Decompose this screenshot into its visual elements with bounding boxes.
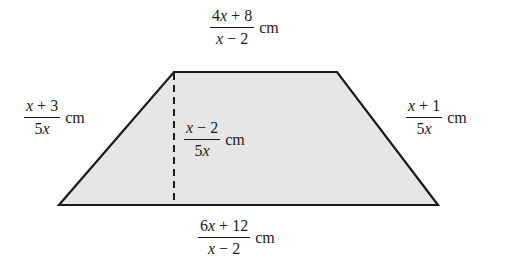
left-side-label: x + 3 5x cm [24,98,85,137]
height-numerator: x − 2 [184,120,220,140]
bottom-base-denominator: x − 2 [206,238,242,257]
left-side-denominator: 5x [33,118,52,137]
top-base-unit: cm [259,20,279,36]
top-base-fraction: 4x + 8 x − 2 [210,8,254,47]
top-base-numerator: 4x + 8 [210,8,254,28]
right-side-numerator: x + 1 [406,98,442,118]
left-side-unit: cm [65,110,85,126]
bottom-base-label: 6x + 12 x − 2 cm [198,218,275,257]
right-side-unit: cm [447,110,467,126]
right-side-label: x + 1 5x cm [406,98,467,137]
left-side-numerator: x + 3 [24,98,60,118]
bottom-base-unit: cm [255,230,275,246]
height-fraction: x − 2 5x [184,120,220,159]
height-label: x − 2 5x cm [184,120,245,159]
height-unit: cm [225,132,245,148]
top-base-denominator: x − 2 [214,28,250,47]
top-base-label: 4x + 8 x − 2 cm [210,8,279,47]
left-side-fraction: x + 3 5x [24,98,60,137]
right-side-denominator: 5x [415,118,434,137]
bottom-base-numerator: 6x + 12 [198,218,250,238]
right-side-fraction: x + 1 5x [406,98,442,137]
height-denominator: 5x [193,140,212,159]
bottom-base-fraction: 6x + 12 x − 2 [198,218,250,257]
trapezoid [59,72,438,205]
